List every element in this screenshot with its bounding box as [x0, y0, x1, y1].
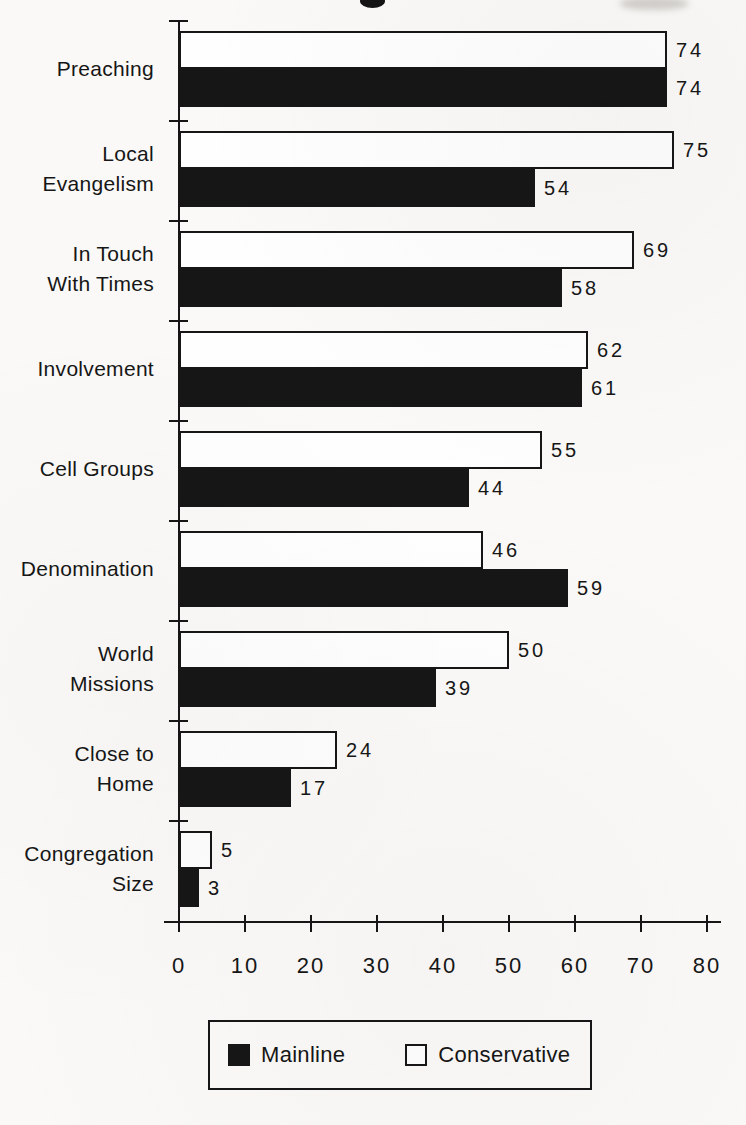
- category-label-close-to-home: Close toHome: [0, 739, 154, 799]
- value-label-mainline-cell-groups: 44: [478, 469, 506, 507]
- x-axis-tick-0: [178, 915, 180, 932]
- x-axis-tick-30: [376, 915, 378, 932]
- bar-conservative-denomination: [179, 531, 483, 569]
- x-axis-tick-10: [244, 915, 246, 932]
- value-label-mainline-in-touch-with-times: 58: [571, 269, 599, 307]
- legend-label-mainline: Mainline: [261, 1042, 345, 1068]
- y-axis-tick: [169, 620, 188, 622]
- value-label-mainline-congregation-size: 3: [208, 869, 222, 907]
- mainline-swatch-icon: [228, 1044, 250, 1066]
- cropped-title-glyph-remnant: [360, 0, 385, 8]
- category-label-local-evangelism: LocalEvangelism: [0, 139, 154, 199]
- y-axis-tick: [169, 20, 188, 22]
- bar-mainline-preaching: [179, 69, 667, 107]
- category-label-line: Evangelism: [0, 169, 154, 199]
- bar-conservative-local-evangelism: [179, 131, 674, 169]
- category-label-line: Home: [0, 769, 154, 799]
- y-axis-tick: [169, 820, 188, 822]
- value-label-conservative-congregation-size: 5: [221, 831, 235, 869]
- y-axis-tick: [169, 120, 188, 122]
- bar-conservative-involvement: [179, 331, 588, 369]
- y-axis-tick: [169, 720, 188, 722]
- value-label-mainline-involvement: 61: [591, 369, 619, 407]
- category-label-line: Local: [0, 139, 154, 169]
- legend-item-mainline: Mainline: [228, 1042, 345, 1068]
- value-label-conservative-close-to-home: 24: [346, 731, 374, 769]
- bar-conservative-congregation-size: [179, 831, 212, 869]
- x-axis-label-70: 70: [609, 953, 673, 979]
- value-label-mainline-preaching: 74: [676, 69, 704, 107]
- category-label-preaching: Preaching: [0, 54, 154, 84]
- x-axis-label-60: 60: [543, 953, 607, 979]
- category-label-line: Denomination: [0, 554, 154, 584]
- bar-mainline-cell-groups: [179, 469, 469, 507]
- bar-conservative-cell-groups: [179, 431, 542, 469]
- category-label-denomination: Denomination: [0, 554, 154, 584]
- category-label-line: Congregation: [0, 839, 154, 869]
- bar-mainline-congregation-size: [179, 869, 199, 907]
- conservative-swatch-icon: [405, 1044, 427, 1066]
- value-label-conservative-denomination: 46: [492, 531, 520, 569]
- value-label-mainline-close-to-home: 17: [300, 769, 328, 807]
- category-label-line: Missions: [0, 669, 154, 699]
- x-axis-tick-50: [508, 915, 510, 932]
- value-label-conservative-cell-groups: 55: [551, 431, 579, 469]
- category-label-line: Close to: [0, 739, 154, 769]
- value-label-conservative-local-evangelism: 75: [683, 131, 711, 169]
- value-label-conservative-world-missions: 50: [518, 631, 546, 669]
- category-label-line: Size: [0, 869, 154, 899]
- category-label-line: Preaching: [0, 54, 154, 84]
- bar-conservative-in-touch-with-times: [179, 231, 634, 269]
- x-axis-label-80: 80: [675, 953, 739, 979]
- category-label-involvement: Involvement: [0, 354, 154, 384]
- x-axis-tick-70: [640, 915, 642, 932]
- x-axis-label-10: 10: [213, 953, 277, 979]
- x-axis-tick-60: [574, 915, 576, 932]
- x-axis-label-0: 0: [147, 953, 211, 979]
- bar-mainline-local-evangelism: [179, 169, 535, 207]
- category-label-congregation-size: CongregationSize: [0, 839, 154, 899]
- category-label-in-touch-with-times: In TouchWith Times: [0, 239, 154, 299]
- scan-smudge-artifact: [620, 0, 688, 10]
- legend-item-conservative: Conservative: [405, 1042, 570, 1068]
- legend-label-conservative: Conservative: [438, 1042, 570, 1068]
- bar-mainline-world-missions: [179, 669, 436, 707]
- bar-conservative-close-to-home: [179, 731, 337, 769]
- value-label-mainline-denomination: 59: [577, 569, 605, 607]
- value-label-mainline-local-evangelism: 54: [544, 169, 572, 207]
- value-label-mainline-world-missions: 39: [445, 669, 473, 707]
- bar-chart-figure: Preaching7474LocalEvangelism7554In Touch…: [0, 0, 746, 1125]
- x-axis-label-20: 20: [279, 953, 343, 979]
- category-label-line: World: [0, 639, 154, 669]
- y-axis-tick: [169, 520, 188, 522]
- value-label-conservative-involvement: 62: [597, 331, 625, 369]
- bar-conservative-preaching: [179, 31, 667, 69]
- bar-mainline-denomination: [179, 569, 568, 607]
- category-label-line: Involvement: [0, 354, 154, 384]
- bar-mainline-involvement: [179, 369, 582, 407]
- category-label-line: Cell Groups: [0, 454, 154, 484]
- category-label-line: With Times: [0, 269, 154, 299]
- x-axis-tick-20: [310, 915, 312, 932]
- x-axis-tick-40: [442, 915, 444, 932]
- category-label-line: In Touch: [0, 239, 154, 269]
- x-axis-tick-80: [706, 915, 708, 932]
- y-axis-tick: [169, 220, 188, 222]
- y-axis-tick: [169, 320, 188, 322]
- x-axis-label-50: 50: [477, 953, 541, 979]
- bar-mainline-close-to-home: [179, 769, 291, 807]
- y-axis-tick: [169, 420, 188, 422]
- value-label-conservative-preaching: 74: [676, 31, 704, 69]
- category-label-cell-groups: Cell Groups: [0, 454, 154, 484]
- x-axis-label-30: 30: [345, 953, 409, 979]
- legend-box: Mainline Conservative: [208, 1020, 592, 1090]
- category-label-world-missions: WorldMissions: [0, 639, 154, 699]
- bar-conservative-world-missions: [179, 631, 509, 669]
- bar-mainline-in-touch-with-times: [179, 269, 562, 307]
- x-axis-label-40: 40: [411, 953, 475, 979]
- value-label-conservative-in-touch-with-times: 69: [643, 231, 671, 269]
